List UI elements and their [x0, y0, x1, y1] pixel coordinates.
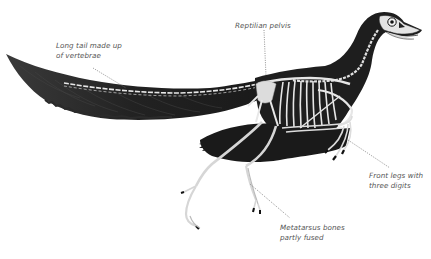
archaeopteryx-illustration — [0, 0, 431, 259]
label-metatarsus-line1: Metatarsus bones — [280, 223, 345, 233]
label-metatarsus-line2: partly fused — [280, 233, 345, 243]
label-front-legs-line2: three digits — [369, 181, 423, 191]
label-tail-line2: of vertebrae — [56, 51, 122, 61]
label-tail: Long tail made up of vertebrae — [56, 41, 122, 60]
label-front-legs: Front legs with three digits — [369, 171, 423, 190]
diagram-canvas: Teeth in the beak Long tail made up of v… — [0, 0, 431, 259]
label-pelvis: Reptilian pelvis — [235, 21, 291, 31]
tail-feathers — [6, 54, 262, 120]
leader-line-pelvis — [264, 30, 266, 76]
label-pelvis-line1: Reptilian pelvis — [235, 21, 291, 31]
label-tail-line1: Long tail made up — [56, 41, 122, 51]
label-front-legs-line1: Front legs with — [369, 171, 423, 181]
label-metatarsus: Metatarsus bones partly fused — [280, 223, 345, 242]
cutoff-label: Teeth in the beak — [243, 0, 305, 2]
leader-line-front-legs — [348, 140, 390, 168]
